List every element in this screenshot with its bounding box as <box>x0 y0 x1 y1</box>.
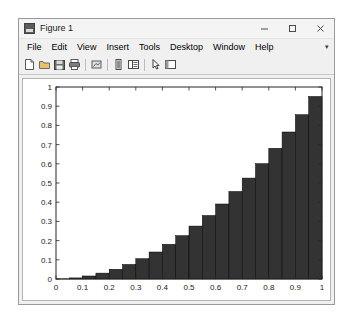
insert-colorbar-button[interactable] <box>111 57 126 72</box>
bar <box>176 236 189 279</box>
show-plot-tools-button[interactable] <box>163 57 178 72</box>
bar <box>256 164 269 279</box>
menu-item-help[interactable]: Help <box>250 39 279 55</box>
bar-chart: 00.10.20.30.40.50.60.70.80.9100.10.20.30… <box>23 79 331 301</box>
y-tick-label: 0.5 <box>41 179 53 188</box>
bar <box>162 244 175 279</box>
bar <box>109 269 122 279</box>
minimize-button[interactable] <box>250 19 278 38</box>
y-tick-label: 0.2 <box>41 237 53 246</box>
toolbar <box>19 55 334 75</box>
x-tick-label: 1 <box>320 283 325 292</box>
edit-plot-icon <box>149 58 162 71</box>
bar <box>123 264 136 279</box>
bar <box>216 204 229 279</box>
menu-item-tools[interactable]: Tools <box>134 39 165 55</box>
y-tick-label: 0.6 <box>41 160 53 169</box>
menu-item-file[interactable]: File <box>22 39 47 55</box>
maximize-icon <box>287 23 298 34</box>
print-figure-icon <box>68 58 81 71</box>
new-figure-icon <box>23 58 36 71</box>
open-file-icon <box>38 58 51 71</box>
x-tick-label: 0.2 <box>104 283 116 292</box>
x-tick-label: 0.7 <box>237 283 249 292</box>
title-bar: Figure 1 <box>19 19 334 39</box>
insert-legend-button[interactable] <box>126 57 141 72</box>
y-tick-label: 0 <box>48 275 53 284</box>
maximize-button[interactable] <box>278 19 306 38</box>
save-figure-icon <box>53 58 66 71</box>
open-file-button[interactable] <box>37 57 52 72</box>
y-tick-label: 0.9 <box>41 102 53 111</box>
y-tick-label: 0.8 <box>41 121 53 130</box>
bar <box>309 96 322 279</box>
menu-bar: File Edit View Insert Tools Desktop Wind… <box>19 39 334 55</box>
bar <box>149 252 162 279</box>
toolbar-separator-3 <box>144 59 145 71</box>
new-figure-button[interactable] <box>22 57 37 72</box>
y-tick-label: 1 <box>48 83 53 92</box>
menu-item-desktop[interactable]: Desktop <box>165 39 208 55</box>
edit-plot-button[interactable] <box>148 57 163 72</box>
close-icon <box>315 23 326 34</box>
x-tick-label: 0.3 <box>130 283 142 292</box>
minimize-icon <box>259 23 270 34</box>
toolbar-separator-2 <box>107 59 108 71</box>
y-tick-label: 0.1 <box>41 256 53 265</box>
bar <box>96 273 109 279</box>
bar <box>282 132 295 279</box>
bar <box>242 178 255 279</box>
bar <box>295 115 308 279</box>
bar <box>229 192 242 279</box>
print-figure-button[interactable] <box>67 57 82 72</box>
link-plot-icon <box>90 58 103 71</box>
x-tick-label: 0.4 <box>157 283 169 292</box>
menu-item-edit[interactable]: Edit <box>47 39 73 55</box>
link-plot-button[interactable] <box>89 57 104 72</box>
x-tick-label: 0.6 <box>210 283 222 292</box>
x-tick-label: 0.8 <box>263 283 275 292</box>
figure-canvas[interactable]: 00.10.20.30.40.50.60.70.80.9100.10.20.30… <box>22 78 331 301</box>
x-tick-label: 0.1 <box>77 283 89 292</box>
window-title: Figure 1 <box>40 19 73 38</box>
matlab-figure-icon <box>24 23 35 34</box>
x-tick-label: 0.5 <box>183 283 195 292</box>
close-button[interactable] <box>306 19 334 38</box>
y-tick-label: 0.7 <box>41 141 53 150</box>
y-tick-label: 0.3 <box>41 217 53 226</box>
insert-legend-icon <box>127 58 140 71</box>
menu-item-view[interactable]: View <box>72 39 101 55</box>
toolbar-separator-1 <box>85 59 86 71</box>
menu-overflow-chevron-icon[interactable]: ▾ <box>325 39 329 55</box>
bar <box>269 148 282 279</box>
show-plot-tools-icon <box>164 58 177 71</box>
y-tick-label: 0.4 <box>41 198 53 207</box>
insert-colorbar-icon <box>112 58 125 71</box>
bar <box>202 216 215 279</box>
x-tick-label: 0 <box>54 283 59 292</box>
bar <box>189 226 202 279</box>
bar <box>136 259 149 279</box>
x-tick-label: 0.9 <box>290 283 302 292</box>
menu-item-insert[interactable]: Insert <box>101 39 134 55</box>
menu-item-window[interactable]: Window <box>208 39 250 55</box>
save-figure-button[interactable] <box>52 57 67 72</box>
figure-window: Figure 1 File Edit View Insert Tools Des… <box>18 18 335 305</box>
